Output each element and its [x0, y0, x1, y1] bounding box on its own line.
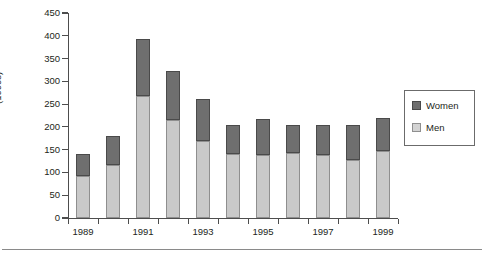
bar-segment-women	[256, 119, 270, 155]
legend-item-women[interactable]: Women	[412, 100, 459, 111]
bar-segment-women	[106, 136, 120, 165]
y-axis-tick-label: 100	[44, 167, 60, 177]
legend-swatch-men-icon	[412, 123, 421, 132]
bar-1995	[256, 119, 270, 218]
bar-segment-women	[376, 118, 390, 151]
x-axis-tick	[68, 219, 69, 224]
x-axis-tick-label: 1995	[243, 227, 283, 237]
bar-segment-men	[256, 155, 270, 218]
legend-label-men: Men	[426, 122, 444, 133]
bar-segment-women	[166, 71, 180, 120]
y-axis-tick-label: 50	[49, 190, 60, 200]
x-axis-tick	[368, 219, 369, 224]
bar-segment-men	[106, 165, 120, 218]
chart-legend: Women Men	[404, 90, 475, 146]
y-axis-tick-label: 0	[55, 213, 60, 223]
bar-segment-women	[196, 99, 210, 140]
x-axis-tick-label: 1989	[63, 227, 103, 237]
bottom-divider	[2, 249, 482, 250]
x-axis-tick	[278, 219, 279, 224]
bar-segment-women	[226, 125, 240, 154]
bar-segment-men	[346, 160, 360, 218]
bar-1992	[166, 71, 180, 218]
y-axis-tick-label: 150	[44, 145, 60, 155]
y-axis-title: (1000s)	[0, 72, 3, 104]
bar-segment-men	[226, 154, 240, 218]
bar-1994	[226, 125, 240, 218]
y-axis-tick-label: 250	[44, 99, 60, 109]
legend-item-men[interactable]: Men	[412, 122, 444, 133]
bar-segment-women	[346, 125, 360, 160]
bar-segment-men	[196, 141, 210, 218]
bar-1989	[76, 154, 90, 218]
x-axis-tick	[248, 219, 249, 224]
x-axis-tick	[98, 219, 99, 224]
x-axis-tick	[308, 219, 309, 224]
bar-1996	[286, 125, 300, 218]
x-axis-tick	[398, 219, 399, 224]
chart-figure: (1000s) 050100150200250300350400450 1989…	[0, 0, 484, 259]
bar-1999	[376, 118, 390, 218]
x-axis-tick	[338, 219, 339, 224]
x-axis-tick-label: 1991	[123, 227, 163, 237]
legend-swatch-women-icon	[412, 101, 421, 110]
bar-1991	[136, 39, 150, 218]
bar-segment-women	[136, 39, 150, 96]
x-axis-tick-label: 1997	[303, 227, 343, 237]
x-axis-tick-label: 1993	[183, 227, 223, 237]
y-axis-tick-label: 300	[44, 76, 60, 86]
y-axis-tick-label: 400	[44, 31, 60, 41]
x-axis-tick	[158, 219, 159, 224]
bar-segment-men	[136, 96, 150, 218]
plot-area	[68, 13, 398, 218]
bar-segment-women	[76, 154, 90, 176]
bar-1997	[316, 125, 330, 218]
bar-segment-men	[376, 151, 390, 218]
y-axis-tick-label: 200	[44, 122, 60, 132]
bar-1990	[106, 136, 120, 218]
bar-segment-women	[316, 125, 330, 155]
y-axis-tick-label: 350	[44, 54, 60, 64]
x-axis-line	[68, 218, 398, 219]
legend-label-women: Women	[426, 100, 459, 111]
y-axis-tick-label: 450	[44, 8, 60, 18]
bar-1993	[196, 99, 210, 218]
x-axis-tick	[188, 219, 189, 224]
x-axis-tick	[218, 219, 219, 224]
bar-segment-men	[286, 153, 300, 218]
bar-segment-men	[166, 120, 180, 218]
bar-segment-women	[286, 125, 300, 154]
bar-segment-men	[76, 176, 90, 218]
bar-segment-men	[316, 155, 330, 218]
x-axis-tick	[128, 219, 129, 224]
x-axis-tick-label: 1999	[363, 227, 403, 237]
bar-1998	[346, 125, 360, 218]
